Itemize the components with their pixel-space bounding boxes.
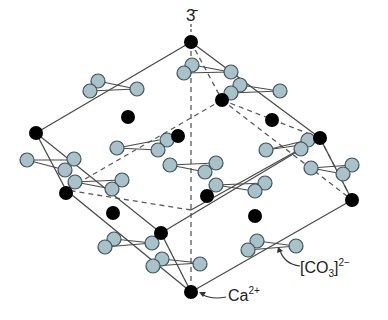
carbonate-group bbox=[177, 58, 238, 80]
threefold-axis-label: 3̄ bbox=[186, 6, 198, 25]
ca-atom bbox=[248, 209, 262, 223]
ca-atom bbox=[265, 113, 279, 127]
ca-atom bbox=[29, 126, 43, 140]
ca-atom bbox=[313, 131, 327, 145]
calcium-label: Ca2+ bbox=[199, 285, 260, 304]
ca-atom bbox=[106, 206, 120, 220]
ca-atom bbox=[215, 93, 229, 107]
ca-atom bbox=[59, 186, 73, 200]
ca-atom bbox=[121, 110, 135, 124]
carbonate-group bbox=[20, 152, 81, 177]
ca-atom-bottom bbox=[184, 285, 198, 299]
svg-text:Ca2+: Ca2+ bbox=[228, 285, 260, 304]
ca-atom bbox=[154, 226, 168, 240]
ca-atom bbox=[345, 193, 359, 207]
carbonate-group bbox=[83, 74, 144, 98]
carbonate-group bbox=[259, 133, 315, 157]
carbonate-group bbox=[224, 78, 287, 100]
ca-atom bbox=[171, 129, 185, 143]
carbonate-label: [CO3]2− bbox=[277, 247, 350, 279]
svg-text:[CO3]2−: [CO3]2− bbox=[300, 257, 350, 279]
carbonate-group bbox=[68, 173, 129, 196]
ca-atom-top bbox=[184, 35, 198, 49]
calcite-structure-diagram: 3̄ bbox=[0, 0, 388, 320]
ca-atom bbox=[200, 189, 214, 203]
carbonate-group bbox=[163, 156, 223, 179]
carbonate-group bbox=[110, 133, 174, 157]
carbonate-group bbox=[98, 232, 159, 254]
